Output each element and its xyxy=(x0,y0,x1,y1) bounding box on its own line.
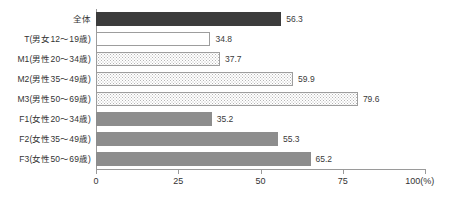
bar-track: 65.2 xyxy=(96,149,457,169)
bar-value-label: 37.7 xyxy=(220,49,242,69)
bar xyxy=(96,152,311,166)
bar-row: F1(女性20～34歳)35.2 xyxy=(0,109,457,129)
bar-row: 全体56.3 xyxy=(0,9,457,29)
bar-value-label: 56.3 xyxy=(281,9,303,29)
x-axis-tick-label: 50 xyxy=(255,176,265,186)
bar-row: M1(男性20～34歳)37.7 xyxy=(0,49,457,69)
category-label: F2(女性35～49歳) xyxy=(19,129,96,149)
bar-value-label: 65.2 xyxy=(311,149,333,169)
bar-row: T(男女12～19歳)34.8 xyxy=(0,29,457,49)
bar-row: M2(男性35～49歳)59.9 xyxy=(0,69,457,89)
bar-value-label: 79.6 xyxy=(358,89,380,109)
bar-chart: 全体56.3T(男女12～19歳)34.8M1(男性20～34歳)37.7M2(… xyxy=(0,0,457,201)
bar-row: M3(男性50～69歳)79.6 xyxy=(0,89,457,109)
x-axis-tick xyxy=(178,169,179,174)
bar xyxy=(96,132,278,146)
bar-track: 34.8 xyxy=(96,29,457,49)
x-axis-unit-label: (%) xyxy=(420,176,434,186)
category-label: M2(男性35～49歳) xyxy=(17,69,96,89)
x-axis-tick-value: 75 xyxy=(338,176,348,186)
bar-track: 55.3 xyxy=(96,129,457,149)
x-axis-tick xyxy=(96,169,97,174)
bar-row: F3(女性50～69歳)65.2 xyxy=(0,149,457,169)
bar-value-label: 34.8 xyxy=(210,29,232,49)
x-axis-tick-value: 50 xyxy=(255,176,265,186)
bar-track: 37.7 xyxy=(96,49,457,69)
x-axis-tick-value: 0 xyxy=(93,176,98,186)
x-axis-tick-value: 25 xyxy=(173,176,183,186)
bar-row: F2(女性35～49歳)55.3 xyxy=(0,129,457,149)
bar-track: 56.3 xyxy=(96,9,457,29)
bar xyxy=(96,72,293,86)
x-axis-tick-label: 0 xyxy=(93,176,98,186)
x-axis-tick xyxy=(343,169,344,174)
bar-value-label: 55.3 xyxy=(278,129,300,149)
category-label: F3(女性50～69歳) xyxy=(19,149,96,169)
x-axis-tick-value: 100 xyxy=(405,176,420,186)
x-axis-tick-label: 75 xyxy=(338,176,348,186)
category-label: F1(女性20～34歳) xyxy=(19,109,96,129)
bar-value-label: 59.9 xyxy=(293,69,315,89)
bar-track: 35.2 xyxy=(96,109,457,129)
bar xyxy=(96,112,212,126)
category-label: T(男女12～19歳) xyxy=(24,29,96,49)
x-axis-tick-label: 25 xyxy=(173,176,183,186)
bar xyxy=(96,92,358,106)
category-label: M1(男性20～34歳) xyxy=(17,49,96,69)
category-label: 全体 xyxy=(73,9,96,29)
bar xyxy=(96,52,220,66)
bar xyxy=(96,12,281,26)
x-axis-tick xyxy=(425,169,426,174)
bar-rows-container: 全体56.3T(男女12～19歳)34.8M1(男性20～34歳)37.7M2(… xyxy=(0,9,457,169)
bar-track: 79.6 xyxy=(96,89,457,109)
bar xyxy=(96,32,210,46)
category-label: M3(男性50～69歳) xyxy=(17,89,96,109)
x-axis-tick-label: 100(%) xyxy=(405,176,434,186)
x-axis-ticks: 0255075100(%) xyxy=(0,169,457,201)
x-axis-tick xyxy=(261,169,262,174)
bar-value-label: 35.2 xyxy=(212,109,234,129)
bar-track: 59.9 xyxy=(96,69,457,89)
